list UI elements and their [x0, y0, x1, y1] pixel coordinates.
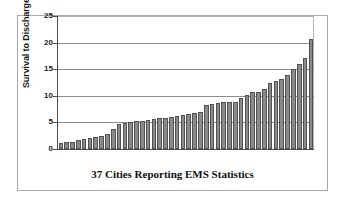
bar: [134, 121, 139, 149]
bar: [175, 116, 180, 149]
y-tick-mark-5: [53, 122, 58, 123]
bar: [111, 129, 116, 149]
bar: [128, 122, 133, 149]
bar: [204, 105, 209, 149]
y-tick-label-0: 0: [19, 144, 53, 153]
bar: [250, 92, 255, 149]
bar: [157, 118, 162, 149]
bar: [210, 104, 215, 149]
y-tick-label-20: 20: [19, 38, 53, 47]
bar: [245, 95, 250, 149]
bar: [70, 142, 75, 149]
y-tick-label-15: 15: [19, 64, 53, 73]
bar: [268, 83, 273, 150]
bar: [279, 79, 284, 149]
bar: [169, 117, 174, 149]
y-tick-label-10: 10: [19, 91, 53, 100]
x-axis-line: [57, 149, 314, 150]
x-axis-title: 37 Cities Reporting EMS Statistics: [18, 168, 327, 180]
y-tick-label-25: 25: [19, 11, 53, 20]
bar: [99, 136, 104, 149]
bar: [256, 92, 261, 149]
bar: [64, 142, 69, 149]
bar: [186, 114, 191, 149]
bar: [192, 113, 197, 149]
bar: [163, 118, 168, 149]
plot-area: [58, 16, 314, 149]
bar: [140, 121, 145, 149]
bar: [76, 140, 81, 149]
bar-series: [58, 16, 314, 149]
bar: [198, 112, 203, 149]
y-tick-mark-10: [53, 96, 58, 97]
bar: [146, 120, 151, 149]
bar: [239, 98, 244, 149]
bar: [297, 64, 302, 149]
bar: [285, 75, 290, 149]
y-tick-label-5: 5: [19, 117, 53, 126]
bar: [221, 102, 226, 149]
bar: [152, 119, 157, 149]
y-tick-mark-15: [53, 69, 58, 70]
y-tick-mark-20: [53, 43, 58, 44]
y-tick-mark-0: [53, 149, 58, 150]
bar: [59, 143, 64, 149]
bar: [291, 69, 296, 149]
bar: [123, 123, 128, 149]
y-tick-mark-25: [53, 16, 58, 17]
bar: [117, 124, 122, 149]
bar: [88, 138, 93, 149]
bar: [181, 115, 186, 149]
bar: [105, 134, 110, 149]
bar: [233, 102, 238, 149]
bar: [274, 81, 279, 149]
bar: [227, 102, 232, 149]
bar: [82, 139, 87, 149]
bar: [93, 137, 98, 149]
bar: [303, 58, 308, 150]
chart-figure: Survival to Discharge (%) 0510152025 37 …: [0, 0, 346, 206]
bar: [216, 103, 221, 149]
bar: [262, 89, 267, 149]
bar: [309, 39, 314, 149]
